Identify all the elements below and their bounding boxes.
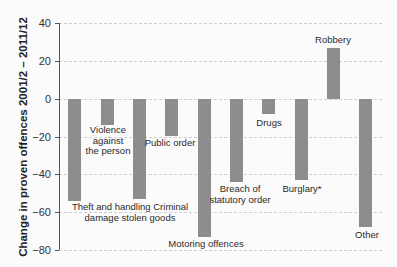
y-tick-label: −20 bbox=[32, 131, 51, 143]
gridline bbox=[59, 174, 382, 175]
y-tick-label: 20 bbox=[39, 55, 51, 67]
y-tick-label: −60 bbox=[32, 206, 51, 218]
tick-mark bbox=[55, 61, 59, 62]
y-axis-line bbox=[59, 23, 60, 250]
bar-label: Public order bbox=[145, 138, 196, 149]
bar bbox=[101, 99, 114, 125]
bar bbox=[295, 99, 308, 180]
bar bbox=[133, 99, 146, 199]
bar bbox=[165, 99, 178, 137]
bar bbox=[68, 99, 81, 201]
tick-mark bbox=[55, 23, 59, 24]
bar-label: Violence against the person bbox=[86, 125, 131, 157]
bar bbox=[262, 99, 275, 114]
bar-label: Breach of statutory order bbox=[209, 184, 270, 205]
tick-mark bbox=[55, 137, 59, 138]
bar-label-theft-criminal-damage: Theft and handling Criminal damage stole… bbox=[72, 202, 188, 223]
bar-label: Robbery bbox=[315, 35, 351, 46]
y-tick-label: −80 bbox=[32, 244, 51, 256]
gridline bbox=[59, 250, 382, 251]
bar-label: Other bbox=[355, 230, 379, 241]
gridline bbox=[59, 23, 382, 24]
bar bbox=[230, 99, 243, 182]
tick-mark bbox=[55, 99, 59, 100]
y-tick-label: −40 bbox=[32, 168, 51, 180]
bar bbox=[327, 48, 340, 99]
bar bbox=[198, 99, 211, 237]
bar-label: Drugs bbox=[256, 118, 281, 129]
tick-mark bbox=[55, 212, 59, 213]
bar-label: Burglary* bbox=[282, 184, 321, 195]
bar-chart: Change in proven offences 2001/2 – 2011/… bbox=[0, 0, 397, 267]
tick-mark bbox=[55, 250, 59, 251]
y-axis-label: Change in proven offences 2001/2 – 2011/… bbox=[17, 17, 29, 257]
y-tick-label: 0 bbox=[45, 93, 51, 105]
y-tick-label: 40 bbox=[39, 17, 51, 29]
bar bbox=[359, 99, 372, 228]
tick-mark bbox=[55, 174, 59, 175]
bar-label: Motoring offences bbox=[168, 239, 243, 250]
